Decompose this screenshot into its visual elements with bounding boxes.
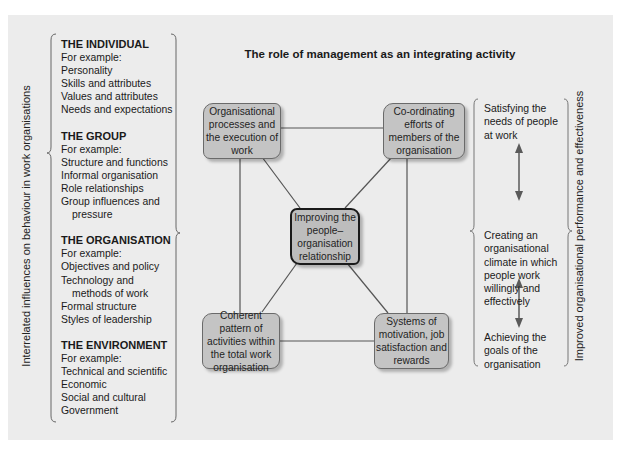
- node-organisational-processes: Organisational processes and the executi…: [203, 103, 281, 159]
- group-intro: For example:: [61, 247, 191, 260]
- influence-group-organisation: THE ORGANISATION For example: Objectives…: [61, 234, 191, 326]
- group-heading: THE GROUP: [61, 130, 191, 143]
- influence-group-individual: THE INDIVIDUAL For example: Personality …: [61, 38, 191, 117]
- influence-group-environment: THE ENVIRONMENT For example: Technical a…: [61, 339, 191, 418]
- outcome-satisfying-needs: Satisfying the needs of people at work: [484, 102, 569, 142]
- list-item: Social and cultural: [61, 391, 191, 404]
- list-item: pressure: [61, 208, 191, 221]
- double-arrow-icon: [515, 143, 523, 201]
- right-axis-label: Improved organisational performance and …: [573, 76, 589, 376]
- list-item: Group influences and: [61, 195, 191, 208]
- left-axis-label: Interrelated influences on behaviour in …: [20, 46, 36, 406]
- list-item: Formal structure: [61, 300, 191, 313]
- list-item: Role relationships: [61, 182, 191, 195]
- diagram-title: The role of management as an integrating…: [200, 48, 560, 60]
- node-coherent-pattern: Coherent pattern of activities within th…: [202, 313, 280, 369]
- outcome-achieving-goals: Achieving the goals of the organisation: [484, 331, 569, 371]
- influence-group-group: THE GROUP For example: Structure and fun…: [61, 130, 191, 222]
- list-item: Skills and attributes: [61, 77, 191, 90]
- group-heading: THE ENVIRONMENT: [61, 339, 191, 352]
- node-coordinating-efforts: Co-ordinating efforts of members of the …: [383, 103, 465, 159]
- list-item: Technical and scientific: [61, 365, 191, 378]
- list-item: Technology and: [61, 274, 191, 287]
- group-heading: THE ORGANISATION: [61, 234, 191, 247]
- list-item: Informal organisation: [61, 169, 191, 182]
- list-item: methods of work: [61, 287, 191, 300]
- list-item: Styles of leadership: [61, 313, 191, 326]
- influences-list: THE INDIVIDUAL For example: Personality …: [61, 38, 191, 430]
- outcome-organisational-climate: Creating an organisational climate in wh…: [484, 229, 569, 309]
- list-item: Economic: [61, 378, 191, 391]
- group-intro: For example:: [61, 352, 191, 365]
- list-item: Values and attributes: [61, 90, 191, 103]
- node-systems-of-motivation: Systems of motivation, job satisfaction …: [374, 313, 449, 369]
- group-intro: For example:: [61, 143, 191, 156]
- list-item: Personality: [61, 64, 191, 77]
- list-item: Needs and expectations: [61, 103, 191, 116]
- group-intro: For example:: [61, 51, 191, 64]
- node-people-organisation-relationship: Improving the people– organisation relat…: [290, 208, 360, 265]
- group-heading: THE INDIVIDUAL: [61, 38, 191, 51]
- list-item: Objectives and policy: [61, 260, 191, 273]
- list-item: Government: [61, 404, 191, 417]
- list-item: Structure and functions: [61, 156, 191, 169]
